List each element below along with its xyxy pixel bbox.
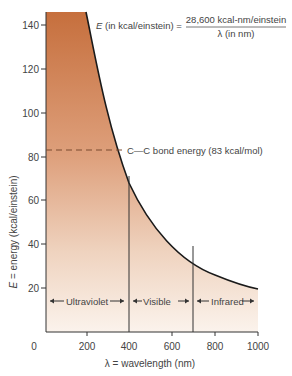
svg-text:λ (in nm): λ (in nm) <box>218 28 255 39</box>
y-tick-100: 100 <box>22 108 39 119</box>
bond-energy-label: C—C bond energy (83 kcal/mol) <box>127 145 263 156</box>
x-tick-600: 600 <box>164 341 181 352</box>
y-tick-80: 80 <box>28 152 40 163</box>
x-axis-label: λ = wavelength (nm) <box>105 358 195 369</box>
svg-text:Infrared: Infrared <box>211 296 244 307</box>
svg-text:28,600 kcal-nm/einstein: 28,600 kcal-nm/einstein <box>186 14 286 25</box>
energy-wavelength-chart: C—C bond energy (83 kcal/mol) 140 120 10… <box>0 0 292 376</box>
x-tick-200: 200 <box>79 341 96 352</box>
svg-text:Visible: Visible <box>143 296 171 307</box>
x-tick-800: 800 <box>207 341 224 352</box>
svg-text:Ultraviolet: Ultraviolet <box>66 296 109 307</box>
x-tick-400: 400 <box>121 341 138 352</box>
y-tick-120: 120 <box>22 64 39 75</box>
y-tick-40: 40 <box>28 239 40 250</box>
y-tick-20: 20 <box>28 283 40 294</box>
x-tick-0: 0 <box>31 341 37 352</box>
y-axis-label: E = energy (kcal/einstein) <box>8 175 19 288</box>
energy-formula: E (in kcal/einstein) = 28,600 kcal-nm/ei… <box>96 14 286 39</box>
x-tick-1000: 1000 <box>247 341 270 352</box>
svg-text:E (in kcal/einstein) =: E (in kcal/einstein) = <box>96 20 182 31</box>
y-ticks <box>41 25 46 288</box>
energy-area <box>46 12 258 332</box>
y-tick-140: 140 <box>22 20 39 31</box>
y-tick-60: 60 <box>28 195 40 206</box>
x-ticks <box>87 332 258 336</box>
